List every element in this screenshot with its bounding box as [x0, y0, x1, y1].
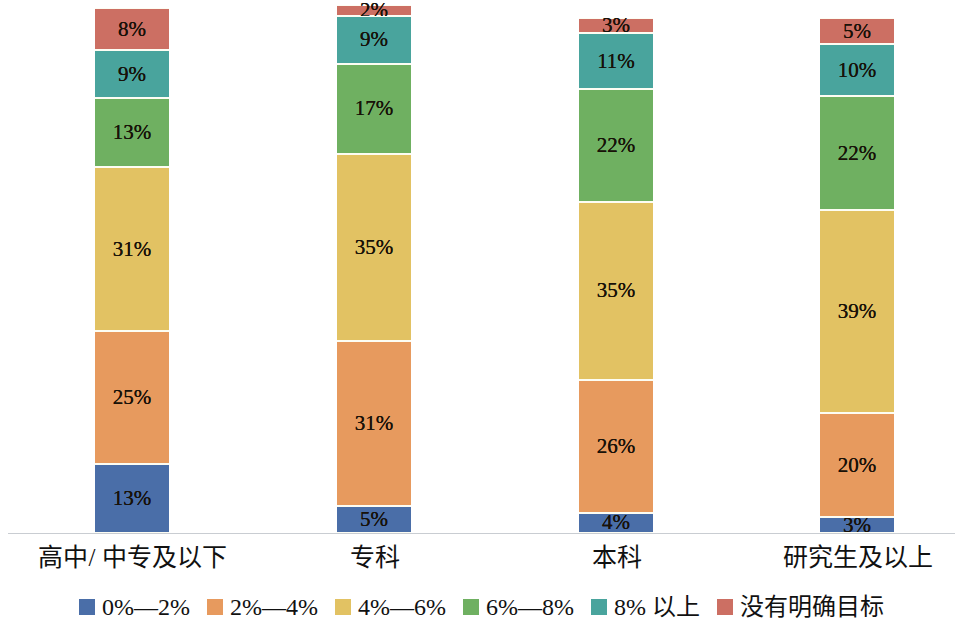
bar-segment: 4% [579, 513, 653, 533]
bar-segment: 9% [337, 16, 411, 64]
bar-segment-label: 10% [838, 60, 877, 81]
bar-segment: 35% [579, 202, 653, 380]
bar-column: 8%9%13%31%25%13% [95, 8, 169, 533]
legend-item[interactable]: 0%—2% [79, 595, 190, 619]
bar-segment: 3% [820, 517, 894, 533]
bar-segment-label: 9% [118, 64, 146, 85]
bar-segment-label: 4% [602, 512, 630, 533]
bar-segment: 13% [95, 464, 169, 533]
category-label: 高中/ 中专及以下 [10, 540, 255, 576]
bar-segment-label: 35% [597, 280, 636, 301]
bar-segment: 10% [820, 44, 894, 96]
bar-segment: 13% [95, 98, 169, 167]
bar-segment: 2% [337, 5, 411, 16]
x-axis-baseline [8, 533, 955, 534]
bar-segment-label: 35% [355, 237, 394, 258]
bar-segment-label: 5% [360, 509, 388, 530]
legend-swatch-icon [207, 599, 223, 615]
bar-segment-label: 22% [597, 135, 636, 156]
bar-segment: 35% [337, 154, 411, 341]
bar-segment: 39% [820, 210, 894, 413]
legend-label: 6%—8% [486, 595, 574, 619]
bar-segment-label: 26% [597, 436, 636, 457]
bar-segment: 22% [579, 89, 653, 201]
bar-segment-label: 25% [113, 387, 152, 408]
legend-item[interactable]: 6%—8% [463, 595, 574, 619]
legend-label: 没有明确目标 [740, 595, 884, 619]
bar-segment: 31% [95, 167, 169, 331]
legend-item[interactable]: 2%—4% [207, 595, 318, 619]
bar-segment-label: 31% [113, 239, 152, 260]
bar-segment-label: 22% [838, 143, 877, 164]
legend-item[interactable]: 没有明确目标 [717, 595, 884, 619]
legend-label: 8% 以上 [614, 595, 700, 619]
bar-segment: 25% [95, 331, 169, 464]
bar-segment-label: 5% [843, 21, 871, 42]
category-label: 专科 [287, 540, 462, 576]
legend-swatch-icon [463, 599, 479, 615]
legend-item[interactable]: 8% 以上 [591, 595, 700, 619]
bar-column: 2%9%17%35%31%5% [337, 5, 411, 533]
legend-label: 2%—4% [230, 595, 318, 619]
bar-column: 3%11%22%35%26%4% [579, 18, 653, 533]
bar-segment: 31% [337, 341, 411, 506]
bar-segment-label: 8% [118, 19, 146, 40]
legend-label: 0%—2% [102, 595, 190, 619]
bar-segment: 22% [820, 96, 894, 210]
bar-segment-label: 13% [113, 488, 152, 509]
bar-column: 5%10%22%39%20%3% [820, 18, 894, 533]
bar-segment: 9% [95, 50, 169, 98]
bar-segment-label: 31% [355, 413, 394, 434]
chart-legend: 0%—2%2%—4%4%—6%6%—8%8% 以上没有明确目标 [0, 589, 963, 625]
category-label: 本科 [529, 540, 704, 576]
legend-swatch-icon [717, 599, 733, 615]
plot-area: 8%9%13%31%25%13%2%9%17%35%31%5%3%11%22%3… [0, 0, 963, 534]
bar-segment: 8% [95, 8, 169, 50]
bar-segment-label: 39% [838, 301, 877, 322]
legend-swatch-icon [79, 599, 95, 615]
legend-swatch-icon [591, 599, 607, 615]
legend-label: 4%—6% [358, 595, 446, 619]
bar-segment: 5% [820, 18, 894, 44]
bar-segment-label: 13% [113, 122, 152, 143]
category-label: 研究生及以上 [743, 540, 963, 576]
bar-segment-label: 17% [355, 98, 394, 119]
legend-swatch-icon [335, 599, 351, 615]
category-axis-labels: 高中/ 中专及以下专科本科研究生及以上 [0, 540, 963, 582]
bar-segment-label: 11% [597, 51, 635, 72]
legend-item[interactable]: 4%—6% [335, 595, 446, 619]
bar-segment: 3% [579, 18, 653, 33]
stacked-bar-chart: 8%9%13%31%25%13%2%9%17%35%31%5%3%11%22%3… [0, 0, 963, 625]
bar-segment-label: 9% [360, 29, 388, 50]
bar-segment: 11% [579, 33, 653, 89]
bar-segment: 26% [579, 380, 653, 513]
bar-segment: 20% [820, 413, 894, 517]
bar-segment: 17% [337, 64, 411, 155]
bar-segment-label: 20% [838, 455, 877, 476]
bar-segment: 5% [337, 506, 411, 533]
